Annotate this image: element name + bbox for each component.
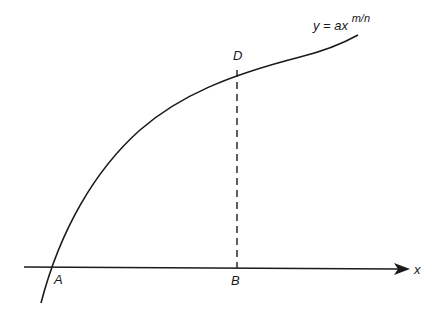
curve-y-ax-m-n [41, 35, 358, 303]
axis-label-x: x [413, 262, 421, 277]
point-label-d: D [233, 48, 242, 63]
curve-equation-label: y = ax m/n [312, 12, 370, 33]
point-label-b: B [231, 273, 240, 288]
curve-equation-exponent: m/n [352, 12, 370, 24]
power-curve-diagram: A B D x y = ax m/n [0, 0, 436, 319]
curve-equation-base: y = ax [312, 18, 349, 33]
x-axis [24, 267, 398, 269]
point-label-a: A [53, 272, 63, 287]
